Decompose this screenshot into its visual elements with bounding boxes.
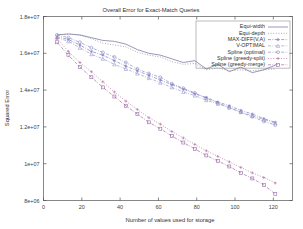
- legend-label: Spline (optimal): [228, 49, 266, 55]
- y-tick-label: 1.8e+07: [20, 14, 40, 20]
- legend-label: Equi-width: [240, 23, 265, 29]
- overall-error-line-chart: Overall Error for Exact-Match Queries 02…: [0, 0, 303, 229]
- y-tick-label: 8e+06: [24, 198, 39, 204]
- x-axis-title: Number of values used for storage: [126, 217, 215, 223]
- x-tick-label: 0: [42, 204, 45, 210]
- y-tick-label: 1.6e+07: [20, 50, 40, 56]
- x-tick-label: 40: [117, 204, 123, 210]
- x-tick-label: 20: [79, 204, 85, 210]
- data-point-marker: [277, 38, 280, 41]
- legend-label: Equi-depth: [239, 30, 265, 36]
- x-tick-label: 60: [155, 204, 161, 210]
- legend-label: MAX-DIFF(V,A): [228, 36, 265, 42]
- chart-title: Overall Error for Exact-Match Queries: [103, 7, 200, 13]
- x-tick-label: 120: [269, 204, 278, 210]
- legend-label: Spline (greedy-split): [217, 55, 265, 61]
- y-axis-title: Squared Error: [4, 90, 10, 126]
- y-tick-label: 1e+07: [24, 161, 39, 167]
- legend-label: Spline (greedy-merge): [211, 61, 265, 67]
- x-tick-label: 80: [194, 204, 200, 210]
- y-tick-label: 1.4e+07: [20, 87, 40, 93]
- legend-label: V-OPTIMAL: [236, 42, 265, 48]
- chart-container: Overall Error for Exact-Match Queries 02…: [0, 0, 303, 229]
- x-tick-label: 100: [231, 204, 240, 210]
- y-tick-label: 1.2e+07: [20, 124, 40, 130]
